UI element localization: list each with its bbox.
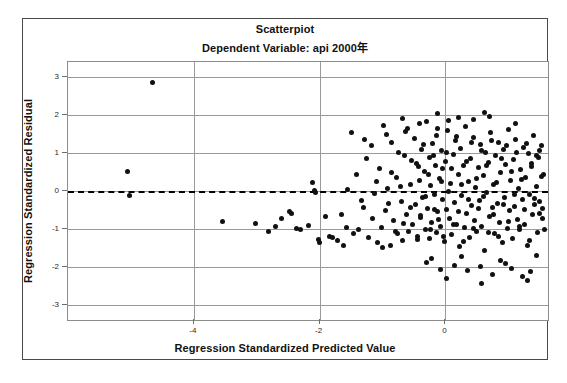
scatter-point <box>462 225 467 230</box>
scatter-point <box>488 130 493 135</box>
scatter-point <box>481 173 486 178</box>
scatter-point <box>289 211 294 216</box>
scatter-point <box>313 190 318 195</box>
scatter-point <box>451 152 456 157</box>
scatter-point <box>474 176 479 181</box>
scatter-point <box>372 191 377 196</box>
scatter-point <box>432 192 437 197</box>
scatter-point <box>351 231 356 236</box>
gridline-horizontal <box>68 77 548 78</box>
scatter-point <box>419 147 424 152</box>
scatter-point <box>490 205 495 210</box>
y-tick-mark <box>62 228 67 229</box>
scatter-point <box>421 142 426 147</box>
chart-subtitle: Dependent Variable: api 2000年 <box>23 39 547 55</box>
scatter-point <box>436 217 441 222</box>
scatter-point <box>532 196 537 201</box>
y-tick-label: -3 <box>43 300 59 309</box>
scatter-point <box>427 236 432 241</box>
scatter-point <box>379 225 384 230</box>
scatter-point <box>442 239 447 244</box>
scatter-point <box>498 170 503 175</box>
scatter-point <box>388 243 393 248</box>
scatter-point <box>429 220 434 225</box>
scatter-point <box>410 222 415 227</box>
scatter-point <box>496 234 501 239</box>
scatter-point <box>448 181 453 186</box>
y-tick-mark <box>62 190 67 191</box>
scatter-point <box>517 224 522 229</box>
scatter-point <box>476 165 481 170</box>
scatter-point <box>511 157 516 162</box>
scatter-point <box>507 208 512 213</box>
scatter-point <box>466 179 471 184</box>
scatter-point <box>459 254 464 259</box>
scatter-point <box>330 235 335 240</box>
gridline-horizontal <box>68 115 548 116</box>
scatter-point <box>253 221 258 226</box>
scatter-point <box>306 223 311 228</box>
scatter-point <box>438 224 443 229</box>
scatter-point <box>362 137 367 142</box>
x-tick-label: 0 <box>434 326 454 335</box>
scatter-point <box>493 153 498 158</box>
scatter-point <box>399 199 404 204</box>
scatter-point <box>413 202 418 207</box>
scatter-point <box>535 230 540 235</box>
scatter-point <box>429 256 434 261</box>
y-tick-mark <box>62 114 67 115</box>
scatter-point <box>430 141 435 146</box>
scatter-point <box>461 239 466 244</box>
scatter-point <box>428 227 433 232</box>
scatter-point <box>466 197 471 202</box>
scatter-point <box>408 205 413 210</box>
scatter-point <box>356 227 361 232</box>
scatter-point <box>509 266 514 271</box>
scatter-point <box>374 179 379 184</box>
scatter-point <box>503 261 508 266</box>
scatter-point <box>416 164 421 169</box>
scatter-point <box>389 170 394 175</box>
scatter-point <box>457 244 462 249</box>
scatter-point <box>386 201 391 206</box>
scatter-point <box>465 268 470 273</box>
scatter-point <box>266 229 271 234</box>
scatter-point <box>370 216 375 221</box>
scatter-point <box>394 175 399 180</box>
x-tick-mark <box>319 319 320 324</box>
scatter-point <box>445 128 450 133</box>
scatter-point <box>380 245 385 250</box>
scatter-point <box>323 214 328 219</box>
scatter-point <box>417 121 422 126</box>
x-tick-mark <box>193 319 194 324</box>
plot-area <box>67 61 549 321</box>
scatter-point <box>449 166 454 171</box>
scatter-point <box>506 219 511 224</box>
scatter-point <box>477 198 482 203</box>
scatter-point <box>527 238 532 243</box>
y-tick-label: 0 <box>43 186 59 195</box>
scatter-point <box>459 193 464 198</box>
zero-reference-line <box>68 191 548 193</box>
scatter-point <box>425 206 430 211</box>
scatter-point <box>479 281 484 286</box>
scatter-point <box>473 185 478 190</box>
scatter-point <box>496 140 501 145</box>
scatter-point <box>487 114 492 119</box>
scatter-point <box>454 134 459 139</box>
scatter-point <box>483 150 488 155</box>
scatter-point <box>393 229 398 234</box>
scatter-point <box>459 182 464 187</box>
scatter-point <box>426 172 431 177</box>
scatter-point <box>354 172 359 177</box>
y-tick-mark <box>62 304 67 305</box>
scatter-point <box>525 278 530 283</box>
scatter-point <box>125 169 130 174</box>
scatter-point <box>366 235 371 240</box>
scatter-point <box>317 240 322 245</box>
scatter-point <box>497 220 502 225</box>
y-axis-label-text: Regression Standardized Residual <box>22 99 34 283</box>
y-tick-label: -2 <box>43 262 59 271</box>
scatter-point <box>398 184 403 189</box>
scatter-point <box>449 232 454 237</box>
